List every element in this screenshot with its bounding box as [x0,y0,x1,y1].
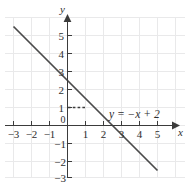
y-tick-label-5: 5 [59,30,65,42]
y-tick-label-neg2: −2 [54,156,66,168]
x-axis-label: x [177,126,183,138]
origin-label: 0 [61,114,66,125]
grid-vertical [14,18,176,178]
x-tick-label-1: 1 [83,128,89,140]
coordinate-plane: −3 −2 −1 1 2 3 4 5 5 4 3 2 1 −1 −2 −3 0 … [0,0,191,195]
y-tick-label-2: 2 [59,84,65,96]
y-tick-label-neg1: −1 [54,138,66,150]
y-axis-label: y [59,3,65,15]
x-tick-label-neg3: −3 [8,128,20,140]
graph-figure: −3 −2 −1 1 2 3 4 5 5 4 3 2 1 −1 −2 −3 0 … [0,0,191,195]
x-tick-label-neg2: −2 [26,128,38,140]
equation-label: y = −x + 2 [108,108,160,121]
y-tick-label-3: 3 [59,66,65,78]
x-tick-label-4: 4 [137,128,143,140]
y-tick-label-4: 4 [59,48,65,60]
x-tick-label-3: 3 [119,128,125,140]
y-tick-label-neg3: −3 [54,172,66,184]
y-tick-label-1: 1 [59,102,65,114]
x-tick-label-5: 5 [155,128,161,140]
x-tick-label-2: 2 [101,128,107,140]
